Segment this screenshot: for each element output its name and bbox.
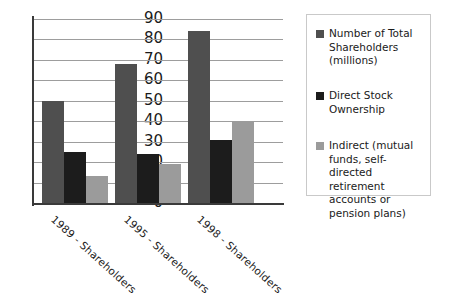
bar-0-2 [86,176,108,203]
gridline-80 [33,39,283,40]
legend-label-2: Indirect (mutual funds, self-directed re… [329,139,428,220]
bar-0-0 [42,101,64,203]
legend-swatch-icon-1 [316,92,324,100]
gridline-50 [33,101,283,102]
gridline-90 [33,19,283,20]
legend-label-1: Direct Stock Ownership [329,89,428,116]
gridline-60 [33,80,283,81]
bar-1-2 [159,164,181,203]
y-axis-line [32,16,34,206]
bar-2-0 [188,31,210,203]
plot-area [33,19,283,203]
x-axis-line [32,203,284,205]
legend-swatch-icon-2 [316,142,324,150]
bar-0-1 [64,152,86,203]
legend-label-0: Number of Total Shareholders (millions) [329,27,428,68]
bar-2-2 [232,121,254,203]
legend-entry-2: Indirect (mutual funds, self-directed re… [316,139,428,220]
legend-entry-1: Direct Stock Ownership [316,89,428,116]
gridline-70 [33,60,283,61]
legend-swatch-icon-0 [316,30,324,38]
chart-legend: Number of Total Shareholders (millions)D… [306,14,431,196]
bar-1-1 [137,154,159,203]
bar-1-0 [115,64,137,203]
legend-entry-0: Number of Total Shareholders (millions) [316,27,428,68]
bar-2-1 [210,140,232,203]
